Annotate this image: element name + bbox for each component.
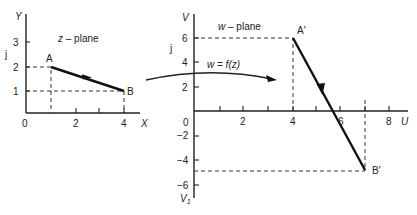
origin-label: 0 xyxy=(183,117,189,128)
point-a-prime-label: A′ xyxy=(297,25,306,36)
v-tick-label-neg4: −4 xyxy=(177,155,189,166)
guide-b xyxy=(26,91,124,113)
point-b-label: B xyxy=(127,86,134,97)
v-bottom-label: V1 xyxy=(180,193,191,205)
path-ab xyxy=(51,67,124,91)
v-tick-label-4: 4 xyxy=(182,57,188,68)
x-axis-label: X xyxy=(140,118,148,129)
u-tick-label-2: 2 xyxy=(240,116,246,127)
v-tick-label-2: 2 xyxy=(182,82,188,93)
y-tick-label-1: 1 xyxy=(13,86,19,97)
y-tick-label-2: 2 xyxy=(13,62,19,73)
conformal-mapping-diagram: Y j 1 2 3 0 2 4 X z – plane A B w = f(z) xyxy=(0,0,417,215)
point-b-prime-label: B′ xyxy=(372,165,381,176)
z-plane: Y j 1 2 3 0 2 4 X z – plane A B xyxy=(4,11,148,129)
origin-label: 0 xyxy=(22,118,28,129)
guide-a xyxy=(26,67,51,113)
v-tick-label-neg6: −6 xyxy=(177,180,189,191)
u-tick-label-6: 6 xyxy=(338,116,344,127)
point-a-label: A xyxy=(46,53,53,64)
imag-label: j xyxy=(169,43,172,54)
path-a-prime-b-prime xyxy=(293,38,365,170)
y-tick-label-3: 3 xyxy=(13,37,19,48)
v-axis-label: V xyxy=(182,12,190,23)
u-axis-label: U xyxy=(401,116,409,127)
v-tick-label-neg2: −2 xyxy=(177,130,189,141)
v-tick-label-6: 6 xyxy=(182,33,188,44)
u-tick-label-4: 4 xyxy=(290,116,296,127)
imag-label: j xyxy=(4,49,7,60)
x-tick-label-4: 4 xyxy=(121,118,127,129)
u-tick-label-8: 8 xyxy=(386,116,392,127)
w-plane: V j 6 4 2 0 −2 −4 −6 V1 2 4 6 8 U w – pl… xyxy=(169,12,409,205)
curved-arrow xyxy=(146,73,272,80)
mapping-arrow: w = f(z) xyxy=(146,59,277,82)
x-tick-label-2: 2 xyxy=(73,118,79,129)
arrowhead-icon xyxy=(266,75,277,82)
mapping-label: w = f(z) xyxy=(207,59,240,70)
plane-title: z – plane xyxy=(57,33,99,44)
plane-title: w – plane xyxy=(218,21,261,32)
y-axis-label: Y xyxy=(15,11,23,22)
